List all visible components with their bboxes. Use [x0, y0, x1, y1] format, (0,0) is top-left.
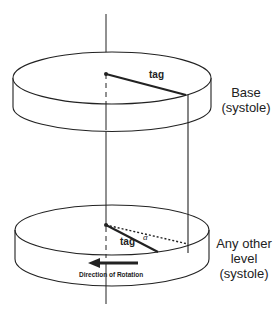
any-other-level-label: Any other level (systole)	[212, 236, 276, 281]
direction-of-rotation-label: Direction of Rotation	[79, 271, 143, 278]
base-label: Base (systole)	[218, 85, 274, 115]
center-dot-bottom	[104, 223, 108, 227]
tag-label-bottom: tag	[120, 236, 135, 247]
angle-alpha-label: α	[143, 233, 148, 242]
tag-label-top: tag	[149, 69, 164, 80]
top-disc	[13, 52, 211, 131]
rotation-arrow-head	[88, 258, 100, 268]
